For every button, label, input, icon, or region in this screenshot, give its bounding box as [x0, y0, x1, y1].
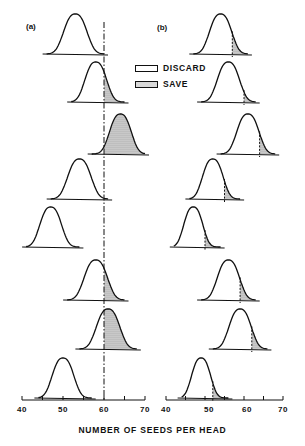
tick-b-40: 40	[161, 405, 171, 414]
legend-label-save: SAVE	[163, 79, 188, 89]
legend-item-save: SAVE	[135, 76, 206, 92]
save-region	[104, 114, 145, 154]
tick-a-50: 50	[58, 405, 68, 414]
discard-swatch-icon	[135, 65, 158, 72]
distribution-curve	[193, 14, 248, 54]
tick-b-70: 70	[278, 405, 288, 414]
panel-a-label: (a)	[26, 22, 36, 31]
distribution-curve	[201, 62, 256, 102]
baseline	[185, 199, 244, 200]
baseline	[209, 349, 272, 350]
baseline	[217, 154, 280, 155]
distribution-curve	[213, 309, 268, 349]
baseline	[75, 349, 140, 350]
baseline	[63, 300, 128, 301]
tick-b-50: 50	[204, 405, 214, 414]
baseline	[47, 199, 112, 200]
baseline	[34, 398, 95, 399]
distribution-curve	[26, 207, 79, 247]
baseline	[189, 54, 252, 55]
panel-a-curves	[22, 14, 149, 399]
tick-a-70: 70	[140, 405, 150, 414]
distribution-curve	[182, 358, 229, 398]
distribution-curve	[51, 159, 108, 199]
tick-a-60: 60	[99, 405, 109, 414]
legend-item-discard: DISCARD	[135, 60, 206, 76]
baseline	[88, 154, 149, 155]
distribution-curve	[67, 260, 124, 300]
legend-label-discard: DISCARD	[163, 63, 206, 73]
legend: DISCARD SAVE	[135, 60, 206, 92]
distribution-curve	[201, 260, 256, 300]
panel-b-label: (b)	[157, 23, 167, 32]
tick-b-60: 60	[242, 405, 252, 414]
distribution-curve	[189, 159, 240, 199]
distribution-curve	[221, 114, 276, 154]
distribution-curve	[38, 358, 91, 398]
x-axis-title: NUMBER OF SEEDS PER HEAD	[0, 425, 305, 435]
distribution-curve	[174, 207, 221, 247]
tick-a-40: 40	[17, 405, 27, 414]
distribution-curve	[47, 14, 104, 54]
baseline	[197, 102, 260, 103]
baseline	[22, 247, 83, 248]
baseline	[67, 102, 128, 103]
baseline	[197, 300, 260, 301]
baseline	[43, 54, 108, 55]
save-swatch-icon	[135, 81, 158, 88]
distribution-curve	[71, 62, 124, 102]
